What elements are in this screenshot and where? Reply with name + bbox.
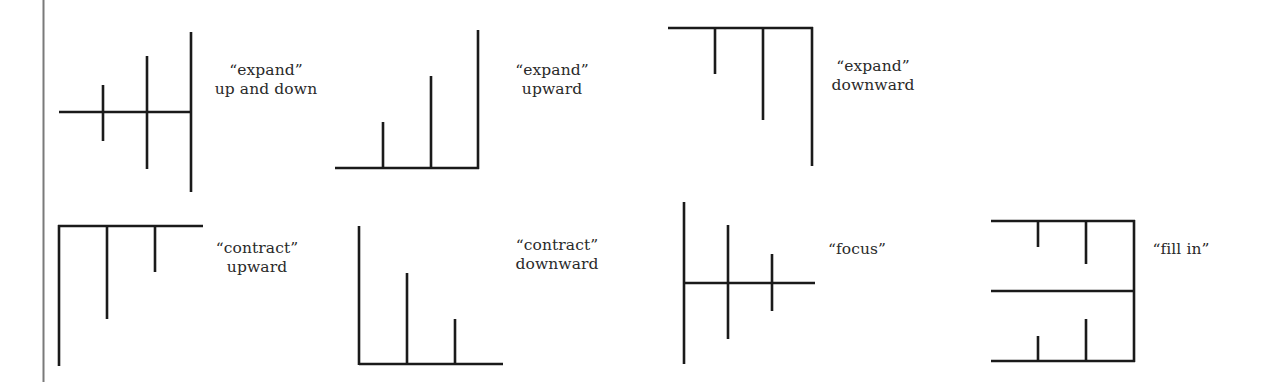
label-line: “fill in” <box>1152 240 1209 259</box>
label-contract-downward: “contract”downward <box>515 236 598 274</box>
label-contract-upward: “contract”upward <box>216 239 299 277</box>
label-line: “contract” <box>515 236 598 255</box>
label-line: “expand” <box>515 61 589 80</box>
label-expand-downward: “expand”downward <box>831 57 914 95</box>
label-line: “contract” <box>216 239 299 258</box>
label-line: downward <box>515 255 598 274</box>
label-line: “focus” <box>828 240 886 259</box>
label-line: upward <box>216 258 299 277</box>
label-line: downward <box>831 76 914 95</box>
label-focus: “focus” <box>828 240 886 259</box>
diagram-focus <box>684 202 815 364</box>
diagram-expand-upward <box>335 30 479 169</box>
label-expand-up-and-down: “expand”up and down <box>215 61 318 99</box>
label-line: up and down <box>215 80 318 99</box>
diagram-expand-up-and-down <box>59 32 191 192</box>
diagram-contract-downward <box>359 226 503 365</box>
diagram-expand-downward <box>668 27 813 166</box>
label-line: “expand” <box>831 57 914 76</box>
label-line: “expand” <box>215 61 318 80</box>
diagram-canvas <box>0 0 1270 382</box>
label-line: upward <box>515 80 589 99</box>
diagram-contract-upward <box>58 225 203 366</box>
diagram-fill-in <box>991 220 1135 362</box>
label-expand-upward: “expand”upward <box>515 61 589 99</box>
label-fill-in: “fill in” <box>1152 240 1209 259</box>
